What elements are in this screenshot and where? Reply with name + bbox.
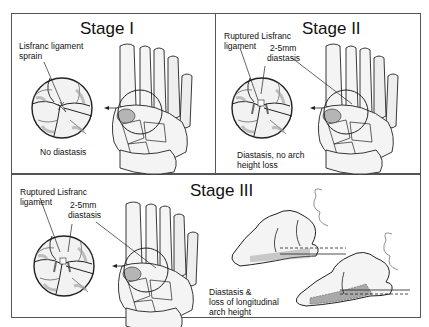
stage-1-finding: No diastasis bbox=[40, 148, 86, 158]
stage-1-title: Stage I bbox=[80, 20, 134, 37]
stage-2-title: Stage II bbox=[302, 20, 361, 37]
stage-3-diastasis-label-line2: diastasis bbox=[68, 211, 101, 221]
stage-2-diastasis-label-line2: diastasis bbox=[267, 54, 300, 64]
stage-3-ligament-label-line2: ligament bbox=[20, 198, 52, 208]
stage-3-title: Stage III bbox=[190, 182, 253, 199]
stage-1-zoom-circle bbox=[32, 78, 92, 138]
lateral-foot-normal bbox=[232, 189, 346, 266]
stage-3-finding-line3: arch height bbox=[209, 308, 251, 318]
stage-1-ligament-label-line2: sprain bbox=[19, 52, 42, 62]
stage-2-ligament-label-line2: ligament bbox=[224, 42, 256, 52]
stage-2-finding-line2: height loss bbox=[237, 161, 278, 171]
